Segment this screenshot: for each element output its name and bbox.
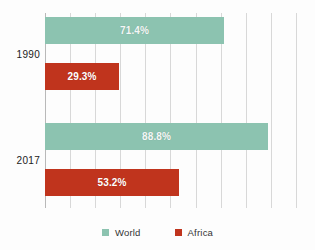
plot-area: 71.4% 29.3% 88.8% 53.2% <box>45 13 296 208</box>
bar-chart: 1990 2017 71.4% 29.3% <box>0 0 315 250</box>
legend-item-africa[interactable]: Africa <box>175 227 213 238</box>
bar-value-label-africa-1990: 29.3% <box>68 71 97 82</box>
legend-swatch-world-icon <box>102 229 109 236</box>
category-label-1990: 1990 <box>4 49 40 60</box>
bar-group-2017: 88.8% 53.2% <box>45 121 296 203</box>
legend-label-africa: Africa <box>188 227 213 238</box>
category-label-2017: 2017 <box>4 155 40 166</box>
bar-value-label-world-2017: 88.8% <box>142 131 171 142</box>
bar-value-label-world-1990: 71.4% <box>120 25 149 36</box>
bar-africa-2017[interactable]: 53.2% <box>45 169 179 196</box>
bar-africa-1990[interactable]: 29.3% <box>45 63 119 90</box>
bar-group-1990: 71.4% 29.3% <box>45 15 296 97</box>
bar-world-1990[interactable]: 71.4% <box>45 17 224 44</box>
gridline-100 <box>296 13 297 208</box>
legend: World Africa <box>0 224 315 240</box>
bar-value-label-africa-2017: 53.2% <box>98 177 127 188</box>
legend-swatch-africa-icon <box>175 229 182 236</box>
legend-item-world[interactable]: World <box>102 227 141 238</box>
bar-world-2017[interactable]: 88.8% <box>45 123 268 150</box>
legend-label-world: World <box>115 227 141 238</box>
